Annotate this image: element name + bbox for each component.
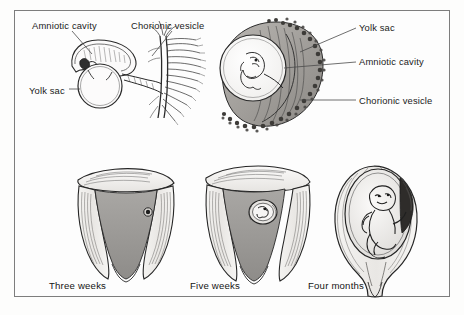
figure-frame	[14, 10, 450, 297]
label-amniotic-cavity-top-right: Amniotic cavity	[359, 56, 424, 67]
caption-four-months: Four months	[308, 280, 364, 291]
label-yolk-sac-top-right: Yolk sac	[359, 22, 395, 33]
label-chorionic-vesicle-top-left: Chorionic vesicle	[131, 20, 204, 31]
label-chorionic-vesicle-top-right: Chorionic vesicle	[359, 95, 432, 106]
figure-root: Amniotic cavity Chorionic vesicle Yolk s…	[0, 0, 464, 315]
caption-three-weeks: Three weeks	[49, 280, 106, 291]
label-yolk-sac-top-left: Yolk sac	[29, 85, 65, 96]
label-amniotic-cavity-top-left: Amniotic cavity	[32, 20, 97, 31]
caption-five-weeks: Five weeks	[190, 280, 240, 291]
